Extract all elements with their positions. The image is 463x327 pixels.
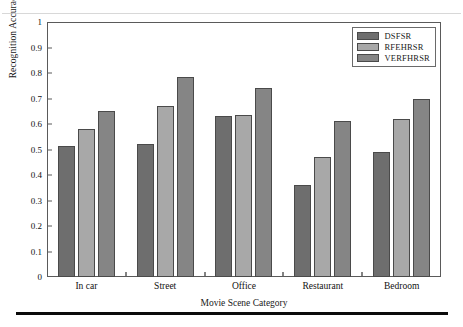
bar — [373, 152, 390, 277]
legend-swatch — [357, 43, 379, 51]
legend-swatch — [357, 54, 379, 62]
legend-label: RFEHRSR — [384, 42, 423, 52]
bar — [78, 129, 95, 277]
bottom-divider — [16, 312, 448, 315]
bar — [235, 115, 252, 277]
bar — [413, 99, 430, 278]
x-tick-label: Bedroom — [384, 281, 419, 291]
bar — [294, 185, 311, 277]
x-tick-label: In car — [75, 281, 97, 291]
legend-item: VERFHRSR — [357, 53, 430, 63]
bar — [334, 121, 351, 277]
x-axis-label: Movie Scene Category — [47, 298, 441, 308]
y-axis-label: Recognition Accuracy — [8, 0, 18, 110]
legend-label: DSFSR — [384, 31, 411, 41]
figure-page: Recognition Accuracy 00.10.20.30.40.50.6… — [0, 0, 463, 327]
bar-group — [283, 22, 362, 277]
bar-group — [47, 22, 126, 277]
bar-chart: Recognition Accuracy 00.10.20.30.40.50.6… — [47, 22, 441, 277]
legend-label: VERFHRSR — [384, 53, 430, 63]
y-tick-label: 0.9 — [31, 43, 47, 53]
legend-swatch — [357, 32, 379, 40]
chart-legend: DSFSRRFEHRSRVERFHRSR — [352, 27, 436, 67]
bar — [137, 144, 154, 277]
x-tick-label: Restaurant — [302, 281, 343, 291]
y-tick-label: 0 — [38, 272, 48, 282]
legend-item: DSFSR — [357, 31, 430, 41]
y-tick-label: 0.5 — [31, 145, 47, 155]
bar — [58, 146, 75, 277]
y-tick-label: 0.1 — [31, 247, 47, 257]
legend-item: RFEHRSR — [357, 42, 430, 52]
y-tick-label: 0.7 — [31, 94, 47, 104]
bar — [393, 119, 410, 277]
x-tick-label: Office — [232, 281, 256, 291]
bar — [177, 77, 194, 277]
bar-group — [205, 22, 284, 277]
y-tick-label: 0.8 — [31, 68, 47, 78]
bar — [98, 111, 115, 277]
bar — [157, 106, 174, 277]
bar — [314, 157, 331, 277]
bar — [255, 88, 272, 277]
y-tick-label: 1 — [38, 17, 48, 27]
bar-group — [126, 22, 205, 277]
y-tick-label: 0.6 — [31, 119, 47, 129]
y-tick-label: 0.4 — [31, 170, 47, 180]
bar — [215, 116, 232, 277]
y-tick-label: 0.3 — [31, 196, 47, 206]
top-divider — [2, 13, 461, 14]
x-tick-label: Street — [154, 281, 176, 291]
y-tick-label: 0.2 — [31, 221, 47, 231]
